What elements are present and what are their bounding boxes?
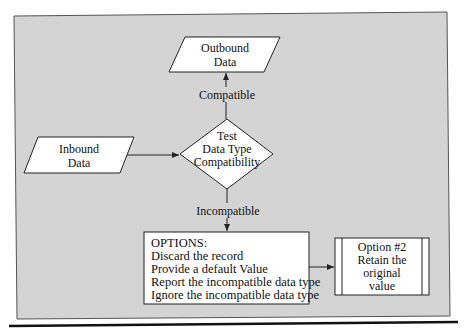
option2-node: Option #2 Retain the original value <box>335 238 429 295</box>
svg-text:value: value <box>369 279 395 293</box>
compatible-label: Compatible <box>199 88 255 102</box>
options-node: OPTIONS: Discard the record Provide a de… <box>144 232 321 304</box>
bottom-rule <box>9 322 458 326</box>
svg-text:Data Type: Data Type <box>202 142 251 156</box>
flowchart-canvas: Compatible Incompatible Outbound Data In… <box>0 0 466 334</box>
svg-text:Report the incompatible data t: Report the incompatible data type <box>151 275 321 289</box>
svg-text:Inbound: Inbound <box>59 142 99 156</box>
svg-text:Ignore the incompatible data t: Ignore the incompatible data type <box>151 288 319 302</box>
svg-text:Data: Data <box>68 156 91 170</box>
svg-text:Compatibility: Compatibility <box>194 155 261 169</box>
incompatible-label: Incompatible <box>196 204 259 218</box>
outbound-data-node: Outbound Data <box>169 37 280 72</box>
svg-text:Data: Data <box>214 55 237 69</box>
svg-text:original: original <box>363 266 401 280</box>
svg-text:Provide a default Value: Provide a default Value <box>151 262 268 276</box>
svg-text:OPTIONS:: OPTIONS: <box>151 236 207 250</box>
svg-text:Outbound: Outbound <box>201 41 249 55</box>
svg-text:Discard the record: Discard the record <box>151 249 244 263</box>
svg-text:Option #2: Option #2 <box>358 240 406 254</box>
inbound-data-node: Inbound Data <box>24 137 134 173</box>
svg-text:Test: Test <box>217 129 237 143</box>
svg-text:Retain the: Retain the <box>358 253 407 267</box>
